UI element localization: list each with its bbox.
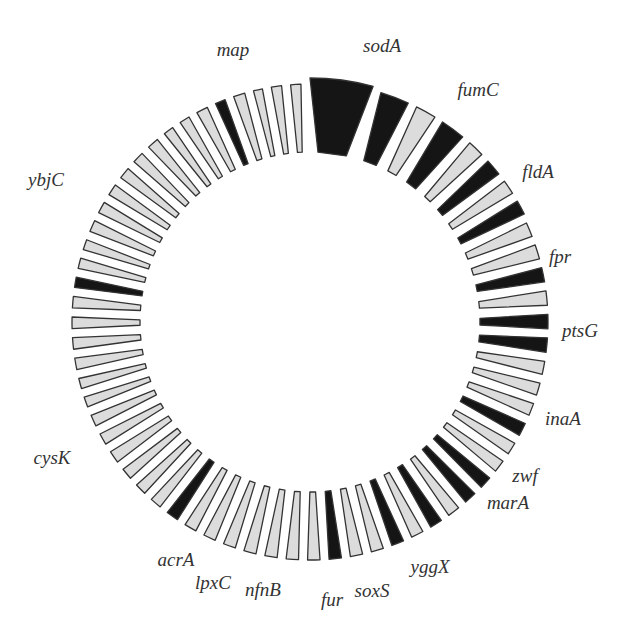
gene-label-ptsG: ptsG [562,320,598,342]
gene-label-cysK: cysK [34,447,71,469]
segment [286,491,300,559]
gene-label-fur: fur [321,589,343,611]
segment [271,86,288,154]
gene-label-nfnB: nfnB [245,579,281,601]
gene-label-fpr: fpr [549,246,571,268]
segment [72,296,140,310]
gene-label-marA: marA [487,492,529,514]
gene-label-inaA: inaA [545,408,581,430]
segment-zwf [480,314,548,329]
gene-label-fumC: fumC [457,79,498,101]
segment [479,291,548,308]
gene-label-map: map [217,39,250,61]
gene-label-yggX: yggX [410,556,449,578]
segment-marA [479,335,548,352]
gene-label-lpxC: lpxC [195,572,231,594]
gene-label-soxS: soxS [355,580,390,602]
gene-label-fldA: fldA [522,161,554,183]
segment [308,492,320,560]
gene-label-ybjC: ybjC [28,169,64,191]
segment [73,335,141,350]
segment [291,84,303,152]
segment-sodA [310,78,373,156]
gene-label-zwf: zwf [512,465,537,487]
gene-label-sodA: sodA [363,35,401,57]
segment [72,317,140,329]
gene-ring [0,0,630,635]
gene-label-acrA: acrA [158,549,195,571]
segment-acrA [325,491,341,560]
